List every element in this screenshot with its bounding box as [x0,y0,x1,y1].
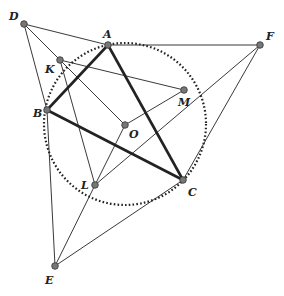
side-AB [47,45,108,110]
segment-DA [24,24,108,45]
label-E: E [44,274,54,287]
point-C [180,177,187,184]
label-F: F [265,30,275,43]
segment-EC [55,180,183,266]
segment-BE [47,110,55,266]
label-M: M [177,96,191,109]
label-L: L [80,179,89,192]
label-A: A [102,28,112,41]
point-L [92,182,99,189]
point-M [181,87,188,94]
segment-FC [183,45,260,180]
point-E [52,263,59,270]
segment-MO [125,90,184,125]
label-D: D [8,10,19,23]
label-B: B [32,107,42,120]
point-A [105,42,112,49]
label-C: C [188,186,197,199]
segment-LE [55,185,95,266]
segment-OL [95,125,125,185]
point-K [57,57,64,64]
point-O [122,122,129,129]
segment-DB [24,24,47,110]
geometry-diagram: DAFKMBOLCE [0,0,284,296]
label-K: K [44,63,55,76]
label-O: O [129,128,139,141]
triangle-abc [47,45,183,180]
point-D [21,21,28,28]
point-F [257,42,264,49]
point-B [44,107,51,114]
